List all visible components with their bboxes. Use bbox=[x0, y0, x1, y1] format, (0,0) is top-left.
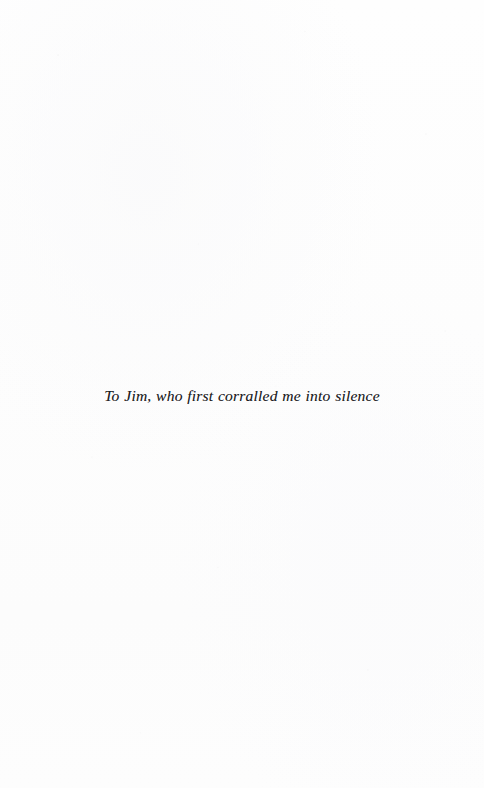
dedication-text: To Jim, who first corralled me into sile… bbox=[104, 386, 380, 406]
book-page: To Jim, who first corralled me into sile… bbox=[0, 0, 484, 788]
dedication-block: To Jim, who first corralled me into sile… bbox=[0, 386, 484, 406]
